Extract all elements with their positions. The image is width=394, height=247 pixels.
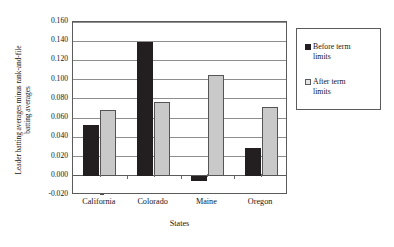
bar (154, 102, 170, 176)
bar (262, 107, 278, 176)
y-axis-tick-label: 0.160 (32, 17, 68, 25)
y-axis-tick-label: 0.120 (32, 55, 68, 63)
bar (191, 176, 207, 181)
y-axis-tick-label: 0.060 (32, 113, 68, 121)
gridline (73, 60, 286, 61)
plot-area (72, 21, 287, 194)
y-axis-tick-label: 0.000 (32, 171, 68, 179)
bar-chart-figure: Leader batting averages minus rank-and-f… (0, 0, 394, 247)
x-axis-tick-labels: CaliforniaColoradoMaineOregon (72, 196, 287, 210)
x-axis-tick-mark (207, 174, 208, 177)
gridline (73, 41, 286, 42)
x-axis-tick-label: Oregon (233, 196, 287, 207)
x-axis-tick-label: California (72, 196, 126, 207)
legend-swatch-icon (305, 79, 311, 85)
x-axis-tick-mark (154, 174, 155, 177)
bar (83, 125, 99, 176)
bar (208, 75, 224, 176)
y-axis-title-line-1: Leader batting averages minus rank-and-f… (14, 20, 23, 200)
x-axis-tick-mark (261, 174, 262, 177)
legend-item[interactable]: After term limits (305, 77, 377, 96)
bar (245, 148, 261, 176)
legend-item-label: After term limits (313, 77, 346, 96)
x-axis-tick-mark (234, 176, 235, 179)
bar (100, 110, 116, 175)
y-axis-tick-labels: 0.1600.1400.1200.1000.0800.0600.0400.020… (32, 21, 68, 194)
legend-swatch-icon (305, 44, 311, 50)
x-axis-tick-label: Maine (180, 196, 234, 207)
y-axis-tick-label: 0.100 (32, 75, 68, 83)
x-axis-title: States (72, 219, 287, 229)
x-axis-tick-mark (100, 174, 101, 177)
x-axis-tick-mark (181, 176, 182, 179)
bar (137, 42, 153, 176)
gridline (73, 79, 286, 80)
y-axis-tick-label: 0.080 (32, 94, 68, 102)
x-axis-tick-mark (127, 176, 128, 179)
y-axis-tick-label: 0.020 (32, 152, 68, 160)
gridline (73, 22, 286, 23)
legend-item-label: Before term limits (313, 42, 350, 61)
x-axis-tick-label: Colorado (126, 196, 180, 207)
legend-item[interactable]: Before term limits (305, 42, 377, 61)
legend: Before term limitsAfter term limits (296, 28, 381, 110)
y-axis-tick-label: 0.040 (32, 132, 68, 140)
gridline (73, 98, 286, 99)
y-axis-tick-mark (100, 194, 104, 195)
y-axis-tick-label: -0.020 (32, 190, 68, 198)
y-axis-tick-label: 0.140 (32, 36, 68, 44)
